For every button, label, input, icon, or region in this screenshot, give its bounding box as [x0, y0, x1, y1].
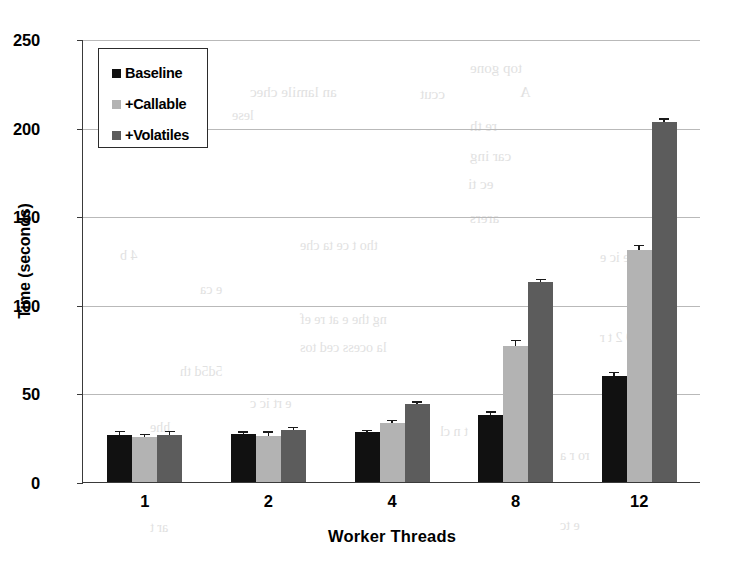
error-bar-cap	[486, 411, 496, 412]
legend-item: Baseline	[112, 65, 182, 81]
y-tick-mark	[77, 394, 83, 395]
y-tick-mark	[77, 217, 83, 218]
error-bar-cap	[288, 427, 298, 428]
error-bar	[243, 433, 244, 434]
y-tick-label: 50	[0, 385, 40, 404]
y-tick-mark	[77, 483, 83, 484]
bar	[528, 282, 553, 482]
bar	[627, 250, 652, 482]
x-tick-label: 8	[486, 492, 546, 511]
bar	[107, 435, 132, 482]
error-bar	[540, 280, 541, 282]
error-bar	[638, 246, 639, 250]
error-bar-cap	[165, 431, 175, 432]
bar-chart: top goneered ceran lamile checccutAleser…	[0, 0, 732, 568]
legend-swatch-icon	[112, 69, 121, 78]
legend-label: +Volatiles	[125, 127, 189, 143]
bar	[405, 404, 430, 482]
bar-group	[355, 40, 430, 482]
bar	[231, 434, 256, 482]
error-bar	[490, 413, 491, 415]
error-bar-cap	[511, 340, 521, 341]
bar	[478, 415, 503, 482]
y-tick-label: 0	[0, 474, 40, 493]
error-bar-cap	[609, 372, 619, 373]
error-bar	[169, 432, 170, 435]
error-bar-cap	[238, 431, 248, 432]
y-tick-mark	[77, 129, 83, 130]
bar	[132, 437, 157, 482]
error-bar-cap	[387, 420, 397, 421]
error-bar	[391, 421, 392, 422]
error-bar	[293, 428, 294, 429]
y-tick-label: 250	[0, 31, 40, 50]
legend-label: +Callable	[125, 96, 186, 112]
bar	[652, 122, 677, 482]
bar	[355, 432, 380, 482]
error-bar-cap	[362, 430, 372, 431]
bar	[380, 423, 405, 482]
bar	[503, 346, 528, 482]
bar-group	[231, 40, 306, 482]
x-tick-label: 4	[362, 492, 422, 511]
error-bar-cap	[263, 431, 273, 432]
error-bar	[416, 403, 417, 404]
error-bar-cap	[659, 118, 669, 119]
legend-item: +Volatiles	[112, 127, 189, 143]
y-tick-mark	[77, 40, 83, 41]
bar-group	[602, 40, 677, 482]
x-tick-label: 12	[609, 492, 669, 511]
chart-legend: Baseline+Callable+Volatiles	[98, 48, 208, 148]
y-tick-label: 200	[0, 120, 40, 139]
bar	[602, 376, 627, 482]
y-tick-label: 100	[0, 297, 40, 316]
error-bar	[144, 435, 145, 437]
error-bar	[268, 433, 269, 436]
error-bar-cap	[115, 431, 125, 432]
legend-item: +Callable	[112, 96, 186, 112]
error-bar-cap	[536, 279, 546, 280]
error-bar-cap	[412, 401, 422, 402]
legend-label: Baseline	[125, 65, 182, 81]
error-bar	[366, 431, 367, 432]
bar-group	[478, 40, 553, 482]
y-tick-mark	[77, 306, 83, 307]
error-bar	[663, 120, 664, 123]
bar	[157, 435, 182, 482]
legend-swatch-icon	[112, 131, 121, 140]
error-bar-cap	[634, 245, 644, 246]
legend-swatch-icon	[112, 100, 121, 109]
y-tick-label: 150	[0, 208, 40, 227]
x-tick-label: 2	[238, 492, 298, 511]
error-bar	[613, 373, 614, 376]
x-axis-title: Worker Threads	[83, 527, 701, 546]
bar	[281, 430, 306, 482]
error-bar-cap	[140, 434, 150, 435]
bar	[256, 436, 281, 482]
x-tick-label: 1	[115, 492, 175, 511]
error-bar	[515, 341, 516, 345]
error-bar	[119, 432, 120, 435]
